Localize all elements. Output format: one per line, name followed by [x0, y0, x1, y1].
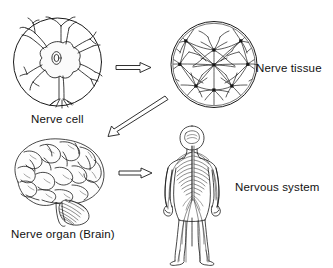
- label-nerve-organ: Nerve organ (Brain): [11, 228, 115, 241]
- label-nerve-cell: Nerve cell: [31, 113, 84, 126]
- label-nervous-system: Nervous system: [235, 181, 320, 194]
- arrow-tissue-to-organ: [108, 96, 168, 137]
- nervous-system-organization-figure: Nerve cell Nerve tissue Nerve organ (Bra…: [0, 0, 333, 268]
- arrow-cell-to-tissue: [116, 63, 151, 73]
- arrow-organ-to-system: [119, 168, 152, 178]
- label-nerve-tissue: Nerve tissue: [256, 62, 322, 75]
